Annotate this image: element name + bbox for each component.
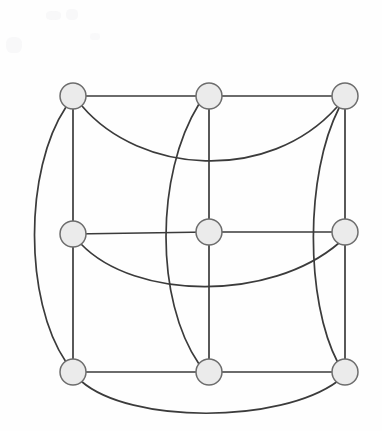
- vertex-bottom-right: [332, 359, 358, 385]
- vertex-top-left: [60, 83, 86, 109]
- vertex-middle-left: [60, 221, 86, 247]
- vertex-middle-center: [196, 219, 222, 245]
- edge-v4-v5: [73, 232, 209, 234]
- edge-v2-v8: [166, 104, 199, 364]
- graph-diagram: [0, 0, 382, 431]
- edge-v7-v9: [81, 381, 338, 413]
- vertex-bottom-left: [60, 359, 86, 385]
- vertex-bottom-center: [196, 359, 222, 385]
- vertex-top-center: [196, 83, 222, 109]
- vertex-top-right: [332, 83, 358, 109]
- figure-canvas: [0, 0, 382, 431]
- vertex-middle-right: [332, 219, 358, 245]
- edge-v4-v6: [81, 243, 339, 287]
